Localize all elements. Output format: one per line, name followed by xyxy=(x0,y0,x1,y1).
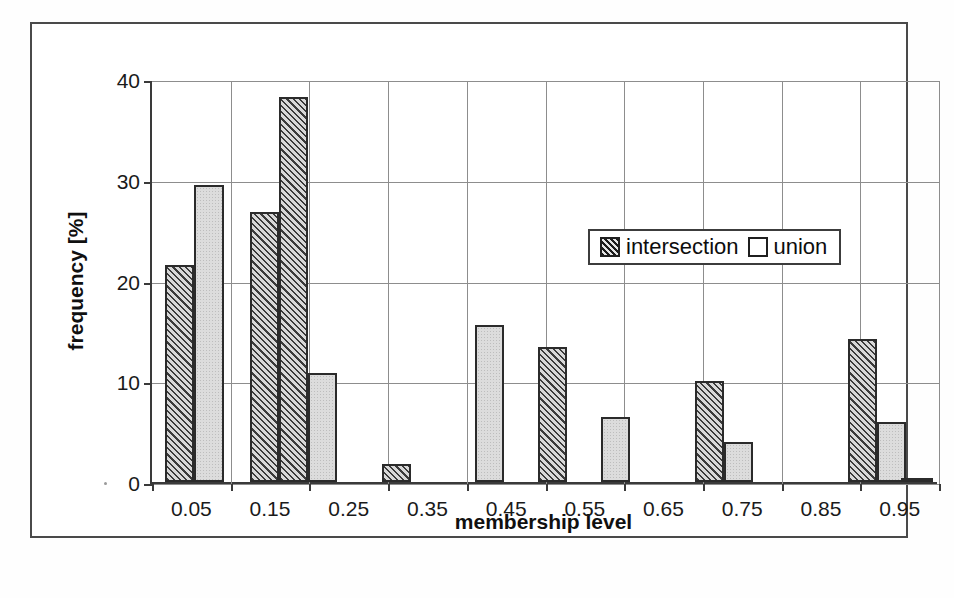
legend-entry-intersection: intersection xyxy=(600,236,739,258)
x-axis-tick xyxy=(467,484,469,491)
x-axis-tick xyxy=(152,484,154,491)
x-axis-tick xyxy=(939,484,941,491)
legend-entry-union: union xyxy=(748,236,828,258)
x-axis-tick-label: 0.95 xyxy=(879,497,920,521)
x-axis-tick-label: 0.15 xyxy=(250,497,291,521)
y-axis-title: frequency [%] xyxy=(64,212,88,351)
gridline-vertical xyxy=(939,81,940,484)
x-axis-tick xyxy=(624,484,626,491)
y-axis-tick-label: 30 xyxy=(117,170,140,194)
bar-union-0.45 xyxy=(601,417,630,482)
plot-area: 010203040 0.050.150.250.350.450.550.650.… xyxy=(150,81,937,484)
x-axis-tick-label: 0.85 xyxy=(801,497,842,521)
bar-union-0.65 xyxy=(724,442,753,482)
x-axis-tick-label: 0.25 xyxy=(328,497,369,521)
x-axis-tick-label: 0.75 xyxy=(722,497,763,521)
figure-frame: frequency [%] membership level 010203040… xyxy=(30,22,908,538)
bar-intersection-0.55 xyxy=(695,381,724,482)
y-axis-tick-label: 10 xyxy=(117,371,140,395)
bar-intersection-0.35 xyxy=(538,347,567,482)
y-axis-tick xyxy=(144,182,152,184)
x-axis-tick xyxy=(388,484,390,491)
bar-intersection-0.75 xyxy=(848,339,877,482)
bar-intersection-0.95 xyxy=(901,478,932,482)
x-axis-tick xyxy=(231,484,233,491)
chart-legend: intersection union xyxy=(588,229,841,265)
bar-intersection-0.15 xyxy=(250,212,279,482)
x-axis-tick-label: 0.65 xyxy=(643,497,684,521)
gridline-vertical xyxy=(782,81,783,484)
bar-intersection-0.05 xyxy=(165,265,194,482)
legend-swatch-open-icon xyxy=(748,237,768,257)
y-axis-tick-label: 0 xyxy=(128,472,140,496)
y-axis-tick xyxy=(144,383,152,385)
gridline-vertical xyxy=(467,81,468,484)
y-axis-tick xyxy=(144,283,152,285)
x-axis-tick xyxy=(860,484,862,491)
y-axis-tick xyxy=(144,81,152,83)
x-axis-tick-label: 0.05 xyxy=(171,497,212,521)
legend-label-intersection: intersection xyxy=(626,236,739,258)
scanned-page-background: frequency [%] membership level 010203040… xyxy=(0,0,954,598)
bar-union-0.05 xyxy=(194,185,223,482)
gridline-vertical xyxy=(231,81,232,484)
x-axis-tick-label: 0.35 xyxy=(407,497,448,521)
bar-union-0.85 xyxy=(877,422,906,482)
bar-intersection-0.25 xyxy=(382,464,411,482)
y-axis-tick xyxy=(144,484,152,486)
x-axis-tick xyxy=(703,484,705,491)
x-axis-tick-label: 0.55 xyxy=(564,497,605,521)
bar-intersection-0.15 xyxy=(279,97,308,482)
bar-union-0.15 xyxy=(308,373,337,482)
gridline-vertical xyxy=(388,81,389,484)
scan-speckle xyxy=(104,482,107,485)
legend-swatch-hatched-icon xyxy=(600,237,620,257)
bar-union-0.35 xyxy=(475,325,504,482)
x-axis-tick xyxy=(782,484,784,491)
x-axis-tick xyxy=(309,484,311,491)
x-axis-tick xyxy=(546,484,548,491)
x-axis-tick-label: 0.45 xyxy=(486,497,527,521)
y-axis-tick-label: 40 xyxy=(117,69,140,93)
legend-label-union: union xyxy=(774,236,828,258)
y-axis-tick-label: 20 xyxy=(117,271,140,295)
